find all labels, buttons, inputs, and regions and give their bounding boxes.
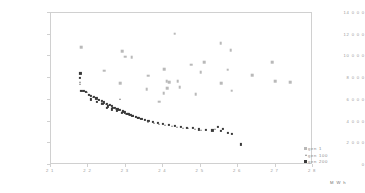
data-point xyxy=(157,122,159,124)
x-tick-mark xyxy=(87,164,88,167)
y-tick-mark xyxy=(47,55,50,56)
data-point xyxy=(121,50,124,53)
data-point xyxy=(173,32,176,35)
scatter-chart: cost ($) 14 0 0 012 0 0 010 0 0 08 0 0 0… xyxy=(0,0,365,193)
data-point xyxy=(162,92,165,95)
data-point xyxy=(229,49,232,52)
data-point xyxy=(230,133,232,135)
x-axis-title: M W h xyxy=(330,180,347,185)
y-tick-mark xyxy=(47,34,50,35)
data-point xyxy=(96,100,98,102)
x-tick-label: 2 6 xyxy=(233,168,241,173)
y-tick-label: 12 0 0 0 xyxy=(319,31,365,36)
legend: gen 1gen 100gen 200 xyxy=(303,146,328,165)
data-point xyxy=(227,131,229,133)
data-point xyxy=(168,124,170,126)
data-point xyxy=(119,98,121,100)
x-tick-label: 2 4 xyxy=(158,168,166,173)
data-point xyxy=(119,82,122,85)
legend-item[interactable]: gen 200 xyxy=(303,159,328,164)
y-tick-mark xyxy=(47,99,50,100)
data-point xyxy=(79,83,81,85)
data-point xyxy=(176,80,179,83)
x-tick-label: 2 7 xyxy=(270,168,278,173)
data-point xyxy=(226,68,229,71)
data-point xyxy=(200,129,202,131)
y-tick-label: 14 0 0 0 xyxy=(319,10,365,15)
x-tick-label: 2 2 xyxy=(83,168,91,173)
data-point xyxy=(144,119,146,121)
data-point xyxy=(103,69,106,72)
data-point xyxy=(121,112,123,114)
data-point xyxy=(186,127,188,129)
data-point xyxy=(162,123,164,125)
x-tick-label: 2 8 xyxy=(308,168,316,173)
data-point xyxy=(271,61,274,64)
x-tick-label: 2 5 xyxy=(196,168,204,173)
data-point xyxy=(124,55,127,58)
data-point xyxy=(205,129,207,131)
data-point xyxy=(214,128,216,130)
legend-label: gen 200 xyxy=(308,159,328,164)
data-point xyxy=(136,116,138,118)
y-tick-mark xyxy=(47,142,50,143)
data-point xyxy=(198,128,200,130)
data-point xyxy=(194,93,197,96)
data-point xyxy=(147,74,150,77)
data-point xyxy=(131,115,133,117)
data-point xyxy=(158,100,161,103)
data-point xyxy=(211,129,213,131)
data-point xyxy=(111,108,113,110)
y-tick-label: 10 0 0 0 xyxy=(319,53,365,58)
x-tick-mark xyxy=(200,164,201,167)
data-point xyxy=(90,98,92,100)
data-point xyxy=(192,127,194,129)
data-point xyxy=(140,118,142,120)
data-point xyxy=(251,74,254,77)
data-point xyxy=(190,63,193,66)
x-tick-mark xyxy=(50,164,51,167)
data-point xyxy=(80,46,83,49)
data-point xyxy=(182,127,184,129)
y-tick-mark xyxy=(47,12,50,13)
y-tick-label: 8 0 0 0 xyxy=(319,75,365,80)
data-point xyxy=(147,120,149,122)
data-point xyxy=(116,110,118,112)
data-point xyxy=(164,124,166,126)
legend-item[interactable]: gen 1 xyxy=(303,146,328,151)
data-point xyxy=(151,121,153,123)
data-point xyxy=(219,42,222,45)
data-point xyxy=(145,88,148,91)
x-tick-mark xyxy=(237,164,238,167)
x-tick-label: 2 1 xyxy=(46,168,54,173)
y-tick-label: 6 0 0 0 xyxy=(319,96,365,101)
y-tick-label: 4 0 0 0 xyxy=(319,118,365,123)
data-point xyxy=(222,128,224,130)
data-point xyxy=(166,87,169,90)
data-point xyxy=(101,103,103,105)
x-tick-mark xyxy=(275,164,276,167)
legend-label: gen 1 xyxy=(308,146,322,151)
data-point xyxy=(220,130,222,132)
data-point xyxy=(231,89,234,92)
data-point xyxy=(79,72,81,74)
y-tick-mark xyxy=(47,121,50,122)
data-point xyxy=(176,126,178,128)
legend-label: gen 100 xyxy=(308,153,328,158)
data-point xyxy=(168,81,171,84)
data-point xyxy=(171,125,173,127)
y-tick-label: 2 0 0 0 xyxy=(319,140,365,145)
data-point xyxy=(106,107,108,109)
x-tick-mark xyxy=(162,164,163,167)
data-point xyxy=(240,143,242,145)
data-point xyxy=(274,80,277,83)
data-point xyxy=(180,126,182,128)
data-point xyxy=(179,86,182,89)
data-point xyxy=(126,113,128,115)
data-point xyxy=(163,68,166,71)
legend-item[interactable]: gen 100 xyxy=(303,152,328,157)
x-tick-label: 2 3 xyxy=(121,168,129,173)
data-point xyxy=(194,128,196,130)
data-point xyxy=(130,56,133,59)
data-point xyxy=(79,77,81,79)
